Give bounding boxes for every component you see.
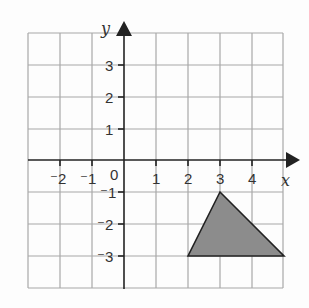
y-tick-label: 2 bbox=[105, 89, 113, 106]
y-tick-label: ⁻3 bbox=[97, 248, 113, 265]
y-axis-arrow-icon bbox=[116, 21, 132, 36]
x-axis-arrow-icon bbox=[286, 152, 300, 168]
y-axis-label: y bbox=[100, 19, 111, 38]
x-tick-label: 1 bbox=[152, 170, 160, 187]
y-tick-label: 1 bbox=[105, 121, 113, 138]
x-tick-label: ⁻2 bbox=[50, 170, 66, 187]
y-tick-label: 3 bbox=[105, 57, 113, 74]
y-tick-label: ⁻2 bbox=[97, 216, 113, 233]
x-tick-label: ⁻1 bbox=[80, 170, 96, 187]
x-tick-label: 2 bbox=[184, 170, 192, 187]
x-tick-label: 4 bbox=[248, 170, 256, 187]
x-tick-label: 0 bbox=[110, 166, 118, 183]
x-axis-label: x bbox=[281, 171, 290, 190]
x-tick-label: 3 bbox=[216, 170, 224, 187]
coordinate-grid: y x ⁻2 ⁻1 0 1 2 3 4 3 2 1 ⁻1 ⁻2 ⁻3 bbox=[0, 0, 309, 308]
y-tick-label: ⁻1 bbox=[100, 184, 116, 201]
